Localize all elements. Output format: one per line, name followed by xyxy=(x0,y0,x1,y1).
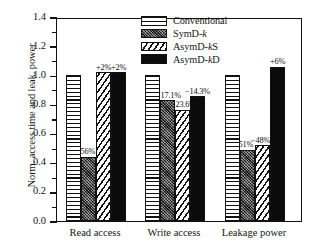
bar-annotation: −48% xyxy=(251,136,270,145)
bar-leakage-power-symd-k xyxy=(240,150,255,221)
bar-write-access-asymd-kd xyxy=(190,96,205,221)
legend-item-symd-k: SymD-k xyxy=(141,28,227,40)
legend-swatch xyxy=(141,54,167,64)
bar-write-access-symd-k xyxy=(160,100,175,221)
legend-item-conventional: Conventional xyxy=(141,15,227,27)
legend-swatch xyxy=(141,42,167,52)
y-tick-label: 0.4 xyxy=(33,156,46,167)
legend-label: AsymD-kD xyxy=(173,54,220,65)
bar-leakage-power-asymd-ks xyxy=(255,145,270,221)
bar-annotation: −14.3% xyxy=(185,87,210,96)
legend: ConventionalSymD-kAsymD-kSAsymD-kD xyxy=(141,15,227,65)
legend-label: Conventional xyxy=(173,15,227,26)
y-tick-label: 0.0 xyxy=(33,215,46,226)
legend-item-asymd-ks: AsymD-kS xyxy=(141,41,227,53)
bar-annotation: +2% xyxy=(96,63,111,72)
bar-read-access-conventional xyxy=(66,75,81,221)
y-tick-label: 0.8 xyxy=(33,98,46,109)
legend-item-asymd-kd: AsymD-kD xyxy=(141,53,227,65)
bar-leakage-power-asymd-kd xyxy=(270,67,285,221)
bar-leakage-power-conventional xyxy=(225,75,240,221)
legend-label: AsymD-kS xyxy=(173,41,218,52)
y-tick-label: 0.2 xyxy=(33,185,46,196)
bar-write-access-conventional xyxy=(145,75,160,221)
bar-read-access-asymd-ks xyxy=(96,72,111,221)
bar-read-access-asymd-kd xyxy=(111,72,126,221)
bar-write-access-asymd-ks xyxy=(175,110,190,221)
legend-swatch xyxy=(141,16,167,26)
legend-label: SymD-k xyxy=(173,28,207,39)
y-tick-label: 1.0 xyxy=(33,69,46,80)
x-axis-label-leakage-power: Leakage power xyxy=(204,227,304,238)
y-tick-label: 1.2 xyxy=(33,40,46,51)
legend-swatch xyxy=(141,29,167,39)
y-tick-label: 1.4 xyxy=(33,11,46,22)
bar-annotation: +2% xyxy=(111,63,126,72)
y-tick-label: 0.6 xyxy=(33,127,46,138)
bar-chart-figure: Norm. access time and leak. power 0.00.2… xyxy=(0,0,320,249)
bar-read-access-symd-k xyxy=(81,157,96,221)
bar-annotation: +6% xyxy=(270,57,285,66)
